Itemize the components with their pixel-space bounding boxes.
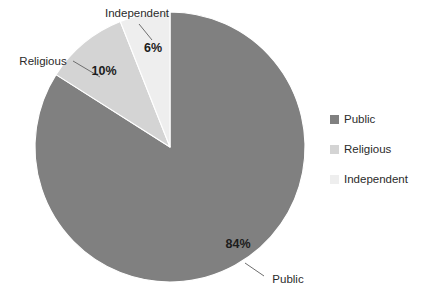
chart-legend: Public Religious Independent xyxy=(330,112,425,202)
legend-swatch-public-icon xyxy=(330,115,339,124)
legend-item-public[interactable]: Public xyxy=(330,112,425,126)
slice-value-independent: 6% xyxy=(144,41,162,55)
legend-label-independent: Independent xyxy=(344,173,408,185)
slice-value-public: 84% xyxy=(225,237,250,251)
legend-label-public: Public xyxy=(344,113,375,125)
pie-chart-figure: 6% 10% 84% Independent Religious Public … xyxy=(0,0,425,298)
legend-swatch-independent-icon xyxy=(330,175,339,184)
callout-label-public: Public xyxy=(272,273,304,285)
legend-item-religious[interactable]: Religious xyxy=(330,142,425,156)
legend-swatch-religious-icon xyxy=(330,145,339,154)
slice-value-religious: 10% xyxy=(91,64,116,78)
callout-label-independent: Independent xyxy=(105,7,170,19)
callout-label-religious: Religious xyxy=(19,55,67,67)
leader-line-public xyxy=(245,263,264,276)
legend-label-religious: Religious xyxy=(344,143,391,155)
legend-item-independent[interactable]: Independent xyxy=(330,172,425,186)
